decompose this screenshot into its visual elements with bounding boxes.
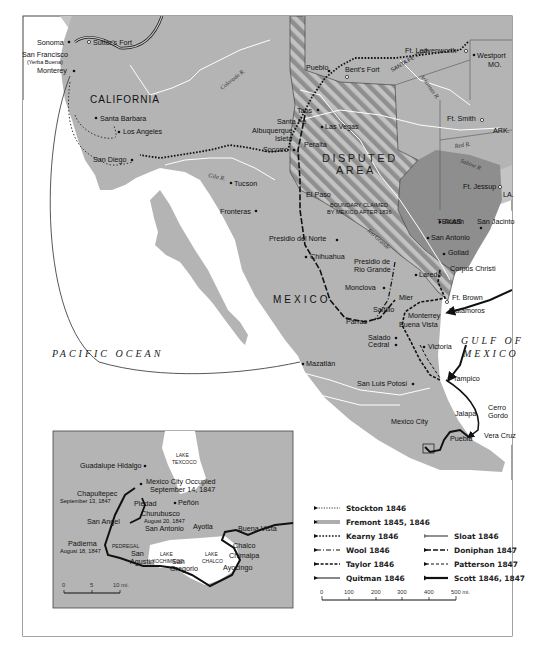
svg-text:Patterson 1847: Patterson 1847 xyxy=(454,560,518,569)
lake-texcoco-2: TEXCOCO xyxy=(172,459,197,465)
mexican-war-map: CALIFORNIA MEXICO TEXAS DISPUTED AREA BO… xyxy=(0,0,538,651)
svg-text:Fremont 1845, 1846: Fremont 1845, 1846 xyxy=(346,518,430,527)
place-peralta: Peralta xyxy=(304,140,327,149)
inset-scale-5: 5 xyxy=(90,582,93,588)
region-california: CALIFORNIA xyxy=(90,94,160,105)
disputed-area-line2: AREA xyxy=(336,164,376,176)
inset-scale-0: 0 xyxy=(62,582,65,588)
place-goliad: Goliad xyxy=(448,248,469,257)
lake-chalco-1: LAKE xyxy=(205,551,218,557)
place-matamoros: Matamoros xyxy=(449,306,485,315)
place-laredo: Laredo xyxy=(419,270,441,279)
place-mier: Mier xyxy=(399,293,414,302)
place-las-vegas: Las Vegas xyxy=(325,122,359,131)
scale-tick-0: 0 xyxy=(320,589,323,595)
place-los-angeles: Los Angeles xyxy=(123,127,163,136)
inset-padierna: Padierna xyxy=(68,539,97,548)
disputed-area-line1: DISPUTED xyxy=(322,152,398,164)
state-missouri: MO. xyxy=(488,60,502,69)
inset-chapultepec-date: September 13, 1847 xyxy=(60,498,111,504)
region-mexico: MEXICO xyxy=(273,294,330,305)
place-ft-leavenworth: Ft. Leavenworth xyxy=(405,46,457,55)
place-san-jacinto: San Jacinto xyxy=(477,217,515,226)
place-san-luis-potosi: San Luis Potosí xyxy=(357,379,407,388)
lake-texcoco-1: LAKE xyxy=(176,452,189,458)
inset-san-angel: San Angel xyxy=(87,517,120,526)
place-san-diego: San Diego xyxy=(93,155,127,164)
inset-scale-10: 10 mi. xyxy=(113,582,129,588)
pacific-ocean-label: PACIFIC OCEAN xyxy=(51,348,163,359)
inset-mexico-city-date: September 14, 1847 xyxy=(150,485,215,494)
inset-piedad: Piedad xyxy=(134,499,156,508)
place-socorro: Socorro xyxy=(263,145,288,154)
place-ft-smith: Ft. Smith xyxy=(447,114,476,123)
place-ft-jessup: Ft. Jessup xyxy=(463,182,496,191)
boundary-claim-line2: BY MEXICO AFTER 1836 xyxy=(327,209,392,215)
place-el-paso: El Paso xyxy=(306,190,331,199)
place-mazatlan: Mazatlán xyxy=(306,359,335,368)
place-santa-fe: Santa Fé xyxy=(277,117,306,126)
place-victoria: Victoria xyxy=(428,342,452,351)
inset-ayotla: Ayotla xyxy=(193,522,213,531)
place-pueblo: Pueblo xyxy=(306,63,328,72)
place-yerba-buena: (Yerba Buena) xyxy=(27,59,63,65)
place-monterrey: Monterrey xyxy=(408,311,441,320)
place-bents-fort: Bent's Fort xyxy=(345,65,380,74)
lake-chalco-2: CHALCO xyxy=(202,558,223,564)
gulf-label-line1: GULF OF xyxy=(461,335,524,346)
inset-san-antonio: San Antonio xyxy=(145,524,184,533)
place-monterey-ca: Monterey xyxy=(37,66,67,75)
place-austin: Austin xyxy=(444,217,464,226)
scale-tick-100: 100 xyxy=(344,589,354,595)
svg-text:Sloat 1846: Sloat 1846 xyxy=(454,532,499,541)
place-fronteras: Fronteras xyxy=(220,207,251,216)
place-puebla: Puebla xyxy=(450,434,472,443)
inset-guadalupe-hidalgo: Guadalupe Hidalgo xyxy=(80,461,142,470)
scale-tick-400: 400 xyxy=(424,589,434,595)
inset-churubusco: Churubusco xyxy=(141,509,180,518)
place-presidio-rio-grande-2: Rio Grande xyxy=(354,265,391,274)
svg-text:Doniphan 1847: Doniphan 1847 xyxy=(454,546,517,555)
inset-penon: Peñón xyxy=(178,498,199,507)
place-sutters-fort: Sutter's Fort xyxy=(93,38,132,47)
inset-chimalpa: Chimalpa xyxy=(229,551,259,560)
place-parras: Parras xyxy=(346,317,368,326)
inset-ayocingo: Ayocingo xyxy=(223,563,252,572)
inset-san-agustin-2: Agustin xyxy=(130,557,154,566)
scale-tick-300: 300 xyxy=(397,589,407,595)
place-ft-brown: Ft. Brown xyxy=(452,293,483,302)
scale-tick-500: 500 mi. xyxy=(451,589,470,595)
svg-text:Kearny 1846: Kearny 1846 xyxy=(346,532,398,541)
place-buena-vista: Buena Vista xyxy=(399,320,438,329)
svg-text:Scott 1846, 1847: Scott 1846, 1847 xyxy=(454,574,525,583)
place-gordo: Gordo xyxy=(488,411,508,420)
inset-padierna-date: August 18, 1847 xyxy=(60,548,101,554)
gulf-label-line2: MEXICO xyxy=(462,348,519,359)
place-westport: Westport xyxy=(477,51,506,60)
place-jalapa: Jalapa xyxy=(455,409,476,418)
place-cedral: Cedral xyxy=(368,340,390,349)
place-tampico: Tampico xyxy=(453,374,480,383)
inset-chapultepec: Chapultepec xyxy=(77,489,118,498)
place-vera-cruz: Vera Cruz xyxy=(484,431,516,440)
svg-text:Stockton 1846: Stockton 1846 xyxy=(346,504,406,513)
inset-chalco: Chalco xyxy=(233,541,255,550)
place-saltillo: Saltillo xyxy=(373,305,394,314)
place-taos: Taos xyxy=(297,106,313,115)
place-chihuahua: Chihuahua xyxy=(310,252,345,261)
place-san-antonio: San Antonio xyxy=(431,233,470,242)
boundary-claim-line1: BOUNDARY CLAIMED xyxy=(330,202,388,208)
place-isleta: Isleta xyxy=(275,134,292,143)
scale-tick-200: 200 xyxy=(371,589,381,595)
state-arkansas: ARK. xyxy=(493,126,510,135)
state-louisiana: LA. xyxy=(503,190,514,199)
place-presidio-del-norte: Presidio del Norte xyxy=(269,234,326,243)
place-mexico-city: Mexico City xyxy=(391,417,429,426)
place-tucson: Tucson xyxy=(234,179,257,188)
place-san-francisco: San Francisco xyxy=(22,50,68,59)
place-corpus-christi: Corpus Christi xyxy=(450,264,496,273)
place-monclova: Monclova xyxy=(345,283,376,292)
inset-san-gregorio-2: Gregorio xyxy=(170,564,198,573)
inset-map: 0 5 10 mi. LAKE TEXCOCO LAKE XOCHIMILCO … xyxy=(53,431,293,608)
svg-text:Wool 1846: Wool 1846 xyxy=(346,546,390,555)
